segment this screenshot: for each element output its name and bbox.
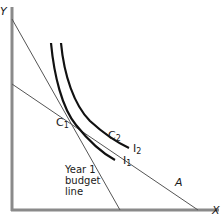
year1-label-line2: budget	[65, 175, 100, 186]
y-axis-label: Y	[0, 6, 7, 17]
year1-label-line1: Year 1	[65, 164, 100, 175]
point-c2-label: C2	[108, 130, 121, 143]
year1-budget-line-label: Year 1 budget line	[65, 164, 100, 197]
diagram-canvas: Y X C1 C2 I2 I1 A Year 1 budget line	[0, 0, 224, 218]
point-c2-subscript: 2	[116, 134, 121, 143]
point-c1-name: C	[56, 116, 64, 129]
point-c1-subscript: 1	[64, 121, 69, 130]
point-c2-name: C	[108, 129, 116, 142]
diagram-graphic	[0, 0, 224, 218]
line-a-label: A	[175, 177, 183, 188]
indifference-curve-i1	[51, 43, 115, 160]
x-axis-label: X	[212, 205, 220, 216]
curve-i1-label: I1	[123, 155, 131, 168]
curve-i1-subscript: 1	[126, 159, 131, 168]
year1-label-line3: line	[65, 186, 100, 197]
point-c1-label: C1	[56, 117, 69, 130]
budget-line-a	[12, 84, 198, 210]
curve-i2-label: I2	[133, 143, 141, 156]
curve-i2-subscript: 2	[136, 147, 141, 156]
